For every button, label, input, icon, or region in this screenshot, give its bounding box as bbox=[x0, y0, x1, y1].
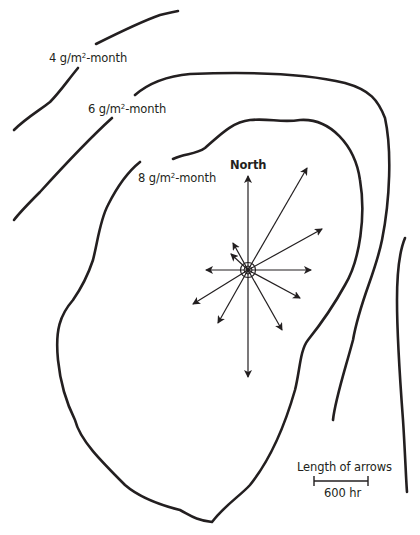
scale-bar bbox=[314, 476, 368, 486]
arrow-ene bbox=[248, 229, 322, 270]
isopleth-label-6: 6 g/m2-month bbox=[88, 102, 166, 116]
arrow-ssw bbox=[218, 270, 248, 323]
scale-value: 600 hr bbox=[324, 486, 361, 500]
isopleth-label-8: 8 g/m2-month bbox=[138, 171, 216, 185]
diagram-canvas: 4 g/m2-month 6 g/m2-month 8 g/m2-month N… bbox=[0, 0, 420, 535]
scale-title: Length of arrows bbox=[297, 460, 392, 474]
arrow-nne bbox=[248, 168, 307, 270]
north-label: North bbox=[230, 158, 266, 172]
arrow-wsw bbox=[193, 270, 248, 304]
wind-rose bbox=[0, 0, 420, 535]
isopleth-label-4: 4 g/m2-month bbox=[49, 51, 127, 65]
arrow-nnw bbox=[233, 243, 248, 270]
